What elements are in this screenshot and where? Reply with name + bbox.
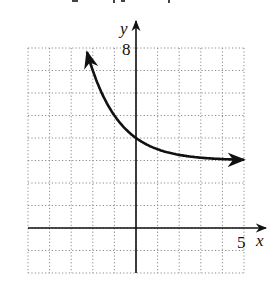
y-axis-label: y	[118, 19, 128, 38]
y-tick-label-8: 8	[122, 40, 131, 59]
cropped-caption-fragment	[72, 0, 170, 3]
x-axis-label: x	[255, 231, 264, 250]
x-tick-label-5: 5	[237, 233, 246, 252]
exponential-graph: y x 8 5	[0, 0, 280, 289]
function-curve	[87, 52, 244, 160]
